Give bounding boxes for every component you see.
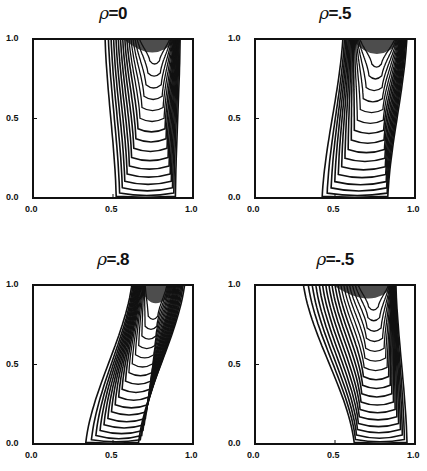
y-tick-label: 0.5 [6,359,19,369]
y-tick-label: 1.0 [228,33,241,43]
x-tick-label: 1.0 [185,204,198,214]
y-tick-label: 0.0 [6,438,19,448]
x-tick-label: 1.0 [407,450,420,460]
y-tick-label: 0.0 [228,192,241,202]
contour-lines [86,282,185,443]
panel-4 [255,282,415,444]
y-tick-label: 1.0 [6,33,19,43]
panel-3 [33,282,193,444]
x-tick-label: 0.0 [25,204,38,214]
plot-canvas [0,0,427,471]
panel-title: ρ=-.5 [275,249,395,270]
rho-value: =.5 [328,4,351,23]
x-tick-label: 0.5 [105,450,118,460]
rho-symbol: ρ [319,3,329,23]
y-tick-label: 0.5 [228,113,241,123]
rho-value: =0 [109,4,127,23]
y-tick-label: 0.5 [6,113,19,123]
panel-1 [33,36,193,198]
contour-lines [322,36,407,197]
y-tick-label: 0.5 [228,359,241,369]
contour-lines [105,36,180,197]
panel-title: ρ=.8 [53,249,173,270]
x-tick-label: 0.0 [247,204,260,214]
panel-title: ρ=0 [53,3,173,24]
rho-value: =.8 [106,250,129,269]
panel-2 [255,36,415,198]
x-tick-label: 1.0 [185,450,198,460]
panel-title: ρ=.5 [275,3,395,24]
contour-lines [303,282,407,443]
y-tick-label: 1.0 [6,279,19,289]
x-tick-label: 0.0 [247,450,260,460]
y-tick-label: 1.0 [228,279,241,289]
rho-symbol: ρ [99,3,109,23]
rho-symbol: ρ [97,249,107,269]
x-tick-label: 0.5 [105,204,118,214]
x-tick-label: 0.5 [327,204,340,214]
x-tick-label: 0.5 [327,450,340,460]
rho-value: =-.5 [326,250,354,269]
y-tick-label: 0.0 [228,438,241,448]
x-tick-label: 1.0 [407,204,420,214]
rho-symbol: ρ [316,249,326,269]
x-tick-label: 0.0 [25,450,38,460]
y-tick-label: 0.0 [6,192,19,202]
